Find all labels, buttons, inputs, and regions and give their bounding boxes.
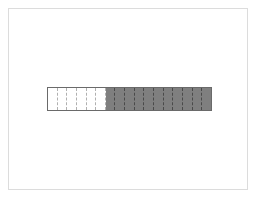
shaded-segment [164,88,174,110]
unshaded-segment [48,88,58,110]
shaded-segment [183,88,193,110]
shaded-segment [106,88,116,110]
shaded-segment [193,88,203,110]
shaded-segment [154,88,164,110]
unshaded-segment [96,88,106,110]
unshaded-segment [77,88,87,110]
shaded-segment [125,88,135,110]
shaded-segment [135,88,145,110]
shaded-segment [144,88,154,110]
shaded-segment [115,88,125,110]
unshaded-segment [67,88,77,110]
fraction-bar [47,87,212,111]
shaded-segment [173,88,183,110]
unshaded-segment [87,88,97,110]
unshaded-segment [58,88,68,110]
shaded-segment [202,88,211,110]
